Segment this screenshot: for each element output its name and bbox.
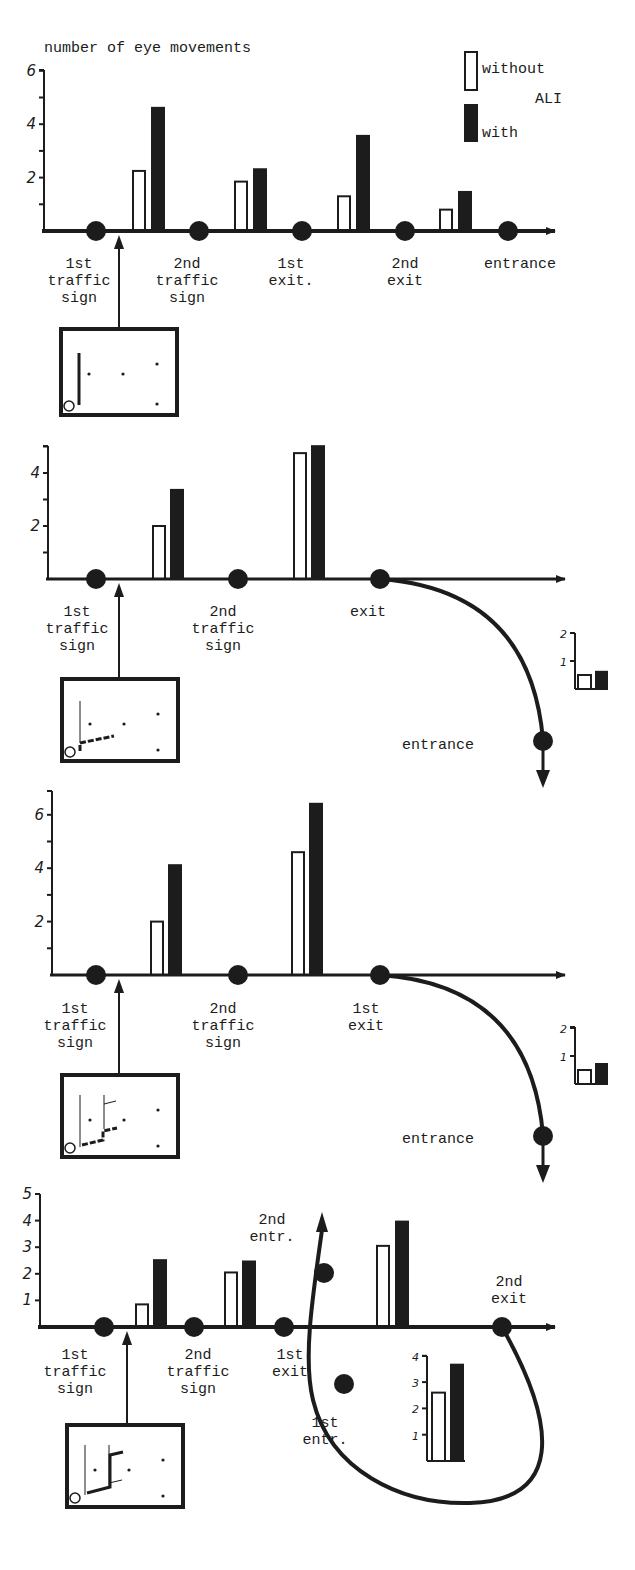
y-tick-label: 2 xyxy=(30,517,40,535)
road-point-label: 2ndtrafficsign xyxy=(191,604,254,655)
panel-4: 123451sttrafficsign2ndtrafficsign1stexit… xyxy=(22,1185,555,1507)
road-point-label: 1sttrafficsign xyxy=(43,1001,106,1052)
up-arrow-icon xyxy=(114,583,124,597)
y-tick-label: 2 xyxy=(22,1265,32,1283)
bar-without-ali xyxy=(133,171,145,231)
legend: without ALI with xyxy=(464,52,562,142)
phone-icon xyxy=(65,747,75,757)
map-dot xyxy=(87,372,90,375)
road-point-label: entrance xyxy=(402,737,474,754)
bar-without-ali xyxy=(294,453,306,579)
y-tick-label: 3 xyxy=(22,1238,32,1256)
y-tick-label: 5 xyxy=(22,1185,32,1203)
y-tick-label: 2 xyxy=(412,1403,419,1416)
bar-with-ali xyxy=(458,191,472,231)
entrance-marker xyxy=(533,731,553,751)
bar-with-ali xyxy=(309,803,323,975)
panels-layer: 2461sttrafficsign2ndtrafficsign1stexit.2… xyxy=(22,62,608,1507)
map-dot xyxy=(121,372,124,375)
road-point-label: 1sttrafficsign xyxy=(43,1347,106,1398)
road-point-marker xyxy=(86,221,106,241)
road-point-marker xyxy=(86,965,106,985)
bar-with-ali xyxy=(450,1364,464,1461)
bar-with-ali xyxy=(311,445,325,579)
road-point-marker xyxy=(184,1317,204,1337)
legend-label-ali: ALI xyxy=(535,91,562,108)
bar-without-ali xyxy=(153,526,165,579)
map-dot xyxy=(156,1144,159,1147)
road-point-marker xyxy=(492,1317,512,1337)
road-point-label: 1stexit xyxy=(348,1001,384,1035)
bar-without-ali xyxy=(578,1070,591,1084)
up-arrow-icon xyxy=(316,1212,328,1232)
road-point-label: 1sttrafficsign xyxy=(47,256,110,307)
inset-chart: 1234 xyxy=(412,1351,465,1461)
road-point-marker xyxy=(292,221,312,241)
y-axis-title: number of eye movements xyxy=(44,40,251,57)
map-dot xyxy=(155,402,158,405)
bar-with-ali xyxy=(168,864,182,975)
y-tick-label: 2 xyxy=(560,1023,567,1036)
road-point-label: 2ndtrafficsign xyxy=(166,1347,229,1398)
y-tick-label: 6 xyxy=(26,62,36,80)
map-dot xyxy=(155,362,158,365)
bar-with-ali xyxy=(395,1221,409,1327)
map-dot xyxy=(161,1494,164,1497)
road-point-marker xyxy=(86,569,106,589)
exit-ramp-curve xyxy=(380,579,543,740)
eye-movements-figure: number of eye movements without ALI with… xyxy=(0,0,635,1570)
road-point-label: 1stentr. xyxy=(302,1415,347,1449)
phone-icon xyxy=(64,401,74,411)
y-tick-label: 1 xyxy=(560,1051,567,1064)
y-tick-label: 1 xyxy=(560,656,567,669)
map-dot xyxy=(88,1118,91,1121)
phone-icon xyxy=(65,1143,75,1153)
entrance-marker xyxy=(334,1374,354,1394)
down-arrow-icon xyxy=(536,770,550,788)
y-tick-label: 4 xyxy=(412,1351,419,1364)
y-tick-label: 1 xyxy=(22,1291,32,1309)
road-point-marker xyxy=(274,1317,294,1337)
y-tick-label: 1 xyxy=(412,1430,419,1443)
exit-ramp-curve xyxy=(380,975,543,1135)
display-screen-frame xyxy=(67,1425,183,1507)
bar-without-ali xyxy=(292,852,304,975)
legend-swatch-with xyxy=(464,104,478,142)
panel-3: 2461sttrafficsign2ndtrafficsign1stexiten… xyxy=(34,791,608,1183)
map-dot xyxy=(127,1468,130,1471)
bar-with-ali xyxy=(151,107,165,231)
panel-2: 241sttrafficsign2ndtrafficsignexitentran… xyxy=(30,445,608,788)
y-tick-label: 2 xyxy=(26,169,36,187)
phone-icon xyxy=(70,1493,80,1503)
road-point-label: 2ndentr. xyxy=(249,1212,294,1246)
bar-without-ali xyxy=(136,1304,148,1327)
bar-with-ali xyxy=(356,135,370,231)
map-dot xyxy=(122,722,125,725)
bar-without-ali xyxy=(235,182,247,231)
y-tick-label: 6 xyxy=(34,806,44,824)
up-arrow-icon xyxy=(114,979,124,993)
bar-with-ali xyxy=(253,168,267,231)
road-point-marker xyxy=(498,221,518,241)
entrance-marker xyxy=(314,1263,334,1283)
road-point-label: 1stexit. xyxy=(268,256,313,290)
bar-with-ali xyxy=(595,671,608,689)
legend-swatch-without xyxy=(465,52,477,90)
map-dot xyxy=(156,1108,159,1111)
bar-without-ali xyxy=(578,675,591,689)
display-screen-frame xyxy=(62,1075,178,1157)
road-point-label: exit xyxy=(350,604,386,621)
loop-ramp xyxy=(309,1230,543,1503)
y-tick-label: 4 xyxy=(26,115,36,133)
y-tick-label: 2 xyxy=(560,628,567,641)
down-arrow-icon xyxy=(536,1165,550,1183)
y-tick-label: 2 xyxy=(34,913,44,931)
bar-without-ali xyxy=(377,1246,389,1327)
road-point-label: 2ndexit xyxy=(387,256,423,290)
bar-without-ali xyxy=(151,922,163,975)
road-point-marker xyxy=(189,221,209,241)
road-point-marker xyxy=(228,569,248,589)
y-tick-label: 4 xyxy=(22,1212,32,1230)
road-point-label: 2ndtrafficsign xyxy=(155,256,218,307)
bar-without-ali xyxy=(338,196,350,231)
